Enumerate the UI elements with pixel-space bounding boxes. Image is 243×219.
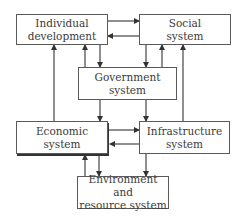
node-individual-development: Individual development xyxy=(16,14,108,45)
node-label: Individual development xyxy=(28,17,97,43)
systems-diagram: Individual development Social system Gov… xyxy=(0,0,243,219)
node-government-system: Government system xyxy=(78,67,177,100)
node-economic-system: Economic system xyxy=(16,121,108,154)
node-label: Economic system xyxy=(36,125,88,151)
node-label: Infrastructure system xyxy=(147,125,223,151)
node-label: Government system xyxy=(95,71,161,97)
node-social-system: Social system xyxy=(139,14,231,45)
node-infrastructure-system: Infrastructure system xyxy=(139,121,230,154)
node-label: Social system xyxy=(166,17,203,43)
node-environment-resource-system: Environment and resource system xyxy=(77,176,169,209)
node-label: Environment and resource system xyxy=(78,173,168,212)
